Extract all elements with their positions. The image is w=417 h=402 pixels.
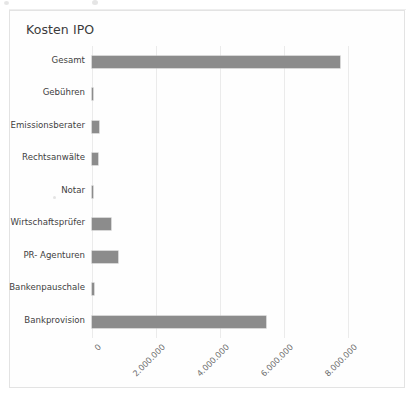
bar: [92, 218, 111, 230]
bar: [92, 121, 99, 133]
category-label: Wirtschaftsprüfer: [10, 216, 85, 228]
bar: [92, 251, 118, 263]
category-label: PR- Agenturen: [23, 249, 85, 261]
category-label: Emissionsberater: [11, 119, 85, 131]
bar-row: Emissionsberater: [92, 111, 408, 143]
plot-area: 02.000.0004.000.0006.000.0008.000.000Ges…: [92, 46, 348, 338]
scan-artifact: [4, 1, 9, 5]
category-label: Bankenpauschale: [9, 281, 85, 293]
bar-row: Bankprovision: [92, 306, 408, 338]
bar-row: Gesamt: [92, 46, 408, 78]
bar-row: Notar: [92, 176, 408, 208]
bar-row: PR- Agenturen: [92, 241, 408, 273]
scan-artifact: [92, 0, 98, 5]
bar: [92, 56, 340, 68]
bar: [92, 283, 94, 295]
category-label: Notar: [61, 184, 85, 196]
bar: [92, 316, 266, 328]
bar: [92, 186, 93, 198]
category-label: Gebühren: [43, 86, 85, 98]
category-label: Rechtsanwälte: [22, 151, 85, 163]
bar-row: Gebühren: [92, 78, 408, 110]
bar-row: Rechtsanwälte: [92, 143, 408, 175]
category-label: Gesamt: [52, 54, 85, 66]
bar-row: Wirtschaftsprüfer: [92, 208, 408, 240]
bar: [92, 88, 93, 100]
category-label: Bankprovision: [24, 314, 85, 326]
chart-title: Kosten IPO: [26, 22, 94, 37]
bar-row: Bankenpauschale: [92, 273, 408, 305]
scan-speck: [53, 196, 56, 199]
bar: [92, 153, 98, 165]
